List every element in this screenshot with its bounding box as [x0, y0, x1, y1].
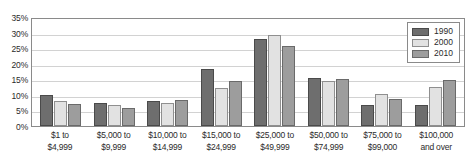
x-axis-label-line: $14,999 [141, 142, 195, 154]
legend-label: 2000 [434, 38, 453, 47]
bar-2010 [443, 80, 456, 126]
legend-swatch-icon [412, 39, 429, 47]
bar-2000 [161, 103, 174, 126]
legend-swatch-icon [412, 28, 429, 36]
bar-chart: 35%30%25%20%15%10%5%0% 199020002010 $1 t… [0, 0, 469, 160]
bar-1990 [361, 105, 374, 126]
y-axis-tick-label: 25% [12, 44, 28, 54]
bar-groups [32, 19, 464, 126]
x-axis-label-line: $50,000 to [302, 130, 356, 142]
y-axis-tick-label: 15% [12, 75, 28, 85]
y-axis-tick-label: 10% [12, 91, 28, 101]
bar-2010 [175, 100, 188, 126]
x-axis-category-label: $15,000 to$24,999 [194, 130, 248, 158]
x-axis-label-line: $100,000 [409, 130, 463, 142]
x-axis-label-line: and over [409, 142, 463, 154]
x-axis-category-label: $75,000 to$99,000 [356, 130, 410, 158]
bar-group [88, 19, 142, 126]
x-axis-label-line: $15,000 to [194, 130, 248, 142]
bar-2000 [429, 87, 442, 126]
x-axis-category-label: $10,000 to$14,999 [141, 130, 195, 158]
y-axis-tick-label: 0% [16, 122, 28, 132]
bar-group [355, 19, 409, 126]
bar-2000 [375, 94, 388, 126]
bar-1990 [94, 103, 107, 126]
legend-item-2000[interactable]: 2000 [412, 37, 453, 48]
bar-1990 [415, 105, 428, 126]
x-axis-label-line: $75,000 to [356, 130, 410, 142]
x-axis-label-line: $5,000 to [87, 130, 141, 142]
legend-swatch-icon [412, 50, 429, 58]
x-axis-label-line: $9,999 [87, 142, 141, 154]
x-axis-category-label: $5,000 to$9,999 [87, 130, 141, 158]
bar-2000 [322, 81, 335, 126]
bar-group [141, 19, 195, 126]
bar-1990 [254, 39, 267, 126]
bar-1990 [147, 101, 160, 126]
legend-label: 2010 [434, 49, 453, 58]
bar-group [302, 19, 356, 126]
y-axis: 35%30%25%20%15%10%5%0% [0, 13, 30, 129]
bar-1990 [40, 95, 53, 126]
legend-label: 1990 [434, 27, 453, 36]
bar-2000 [108, 105, 121, 126]
y-axis-tick-label: 35% [12, 13, 28, 23]
x-axis-category-label: $50,000 to$74,999 [302, 130, 356, 158]
bar-group [34, 19, 88, 126]
x-axis: $1 to$4,999$5,000 to$9,999$10,000 to$14,… [31, 130, 465, 158]
bar-2010 [282, 46, 295, 126]
bar-group [195, 19, 249, 126]
x-axis-label-line: $25,000 to [248, 130, 302, 142]
x-axis-label-line: $74,999 [302, 142, 356, 154]
x-axis-category-label: $100,000and over [409, 130, 463, 158]
bar-group [248, 19, 302, 126]
x-axis-category-label: $25,000 to$49,999 [248, 130, 302, 158]
y-axis-tick-label: 5% [16, 106, 28, 116]
bar-2010 [68, 104, 81, 126]
legend: 199020002010 [407, 22, 460, 63]
bar-2010 [229, 81, 242, 126]
bar-2010 [122, 108, 135, 126]
x-axis-label-line: $24,999 [194, 142, 248, 154]
x-axis-label-line: $49,999 [248, 142, 302, 154]
x-axis-label-line: $99,000 [356, 142, 410, 154]
legend-item-2010[interactable]: 2010 [412, 48, 453, 59]
plot-area [31, 18, 465, 127]
y-axis-tick-label: 20% [12, 60, 28, 70]
bar-2010 [389, 99, 402, 126]
bar-2000 [54, 101, 67, 126]
y-axis-tick-label: 30% [12, 29, 28, 39]
bar-2000 [215, 88, 228, 126]
bar-2010 [336, 79, 349, 126]
bar-2000 [268, 35, 281, 126]
legend-item-1990[interactable]: 1990 [412, 26, 453, 37]
x-axis-label-line: $1 to [33, 130, 87, 142]
x-axis-label-line: $4,999 [33, 142, 87, 154]
x-axis-category-label: $1 to$4,999 [33, 130, 87, 158]
bar-1990 [201, 69, 214, 126]
bar-1990 [308, 78, 321, 126]
x-axis-label-line: $10,000 to [141, 130, 195, 142]
